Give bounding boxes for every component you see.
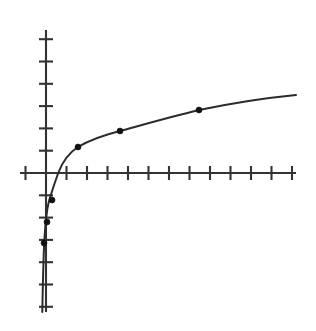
plot-background [0,0,316,331]
data-point [44,219,50,225]
data-point [41,240,47,246]
data-point [117,128,123,134]
data-point [75,144,81,150]
data-point [49,197,55,203]
graph-canvas [0,0,316,331]
data-point [196,107,202,113]
graph-figure [0,0,316,331]
